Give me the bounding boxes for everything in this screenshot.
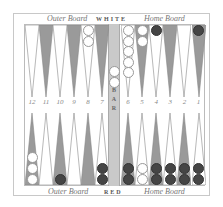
point-number: 6	[121, 98, 135, 106]
red-checker[interactable]	[193, 25, 204, 36]
point-top-1[interactable]	[25, 25, 39, 97]
point-number: 11	[39, 98, 53, 106]
white-checker[interactable]	[123, 36, 134, 47]
point-number: 7	[95, 98, 109, 106]
point-top-6[interactable]	[95, 25, 109, 97]
point-bottom-2[interactable]	[39, 113, 53, 185]
white-checker[interactable]	[137, 36, 148, 47]
point-number: 4	[149, 98, 163, 106]
point-top-4[interactable]	[67, 25, 81, 97]
white-checker[interactable]	[123, 57, 134, 68]
red-checker[interactable]	[165, 163, 176, 174]
point-number: 9	[67, 98, 81, 106]
bottom-home-board-label: Home Board	[144, 187, 185, 196]
bar-label: BAR	[109, 86, 119, 113]
red-checker[interactable]	[97, 163, 108, 174]
top-outer-board-label: Outer Board	[47, 14, 87, 23]
red-checker[interactable]	[179, 163, 190, 174]
point-top-3[interactable]	[53, 25, 67, 97]
red-checker[interactable]	[97, 174, 108, 185]
point-top-11[interactable]	[177, 25, 191, 97]
red-checker[interactable]	[55, 174, 66, 185]
white-checker[interactable]	[137, 25, 148, 36]
top-home-board-label: Home Board	[144, 14, 185, 23]
point-top-10[interactable]	[163, 25, 177, 97]
point-bottom-4[interactable]	[67, 113, 81, 185]
white-checker[interactable]	[123, 67, 134, 78]
point-number: 5	[135, 98, 149, 106]
white-checker[interactable]	[137, 163, 148, 174]
white-checker[interactable]	[27, 174, 38, 185]
red-checker[interactable]	[151, 174, 162, 185]
red-checker[interactable]	[151, 163, 162, 174]
point-number: 3	[163, 98, 177, 106]
white-checker[interactable]	[27, 163, 38, 174]
white-checker[interactable]	[27, 152, 38, 163]
white-checker[interactable]	[137, 174, 148, 185]
point-bottom-5[interactable]	[81, 113, 95, 185]
point-number: 10	[53, 98, 67, 106]
point-number: 8	[81, 98, 95, 106]
red-checker[interactable]	[151, 25, 162, 36]
red-side-label: RED	[104, 189, 123, 195]
bottom-outer-board-label: Outer Board	[48, 187, 88, 196]
bar-checker[interactable]	[109, 77, 120, 88]
white-side-label: WHITE	[96, 16, 127, 22]
point-top-2[interactable]	[39, 25, 53, 97]
point-number: 1	[192, 98, 206, 106]
red-checker[interactable]	[165, 174, 176, 185]
white-checker[interactable]	[123, 25, 134, 36]
red-checker[interactable]	[193, 174, 204, 185]
red-checker[interactable]	[123, 163, 134, 174]
red-checker[interactable]	[193, 163, 204, 174]
point-number: 12	[25, 98, 39, 106]
white-checker[interactable]	[83, 25, 94, 36]
red-checker[interactable]	[179, 174, 190, 185]
white-checker[interactable]	[83, 36, 94, 47]
red-checker[interactable]	[123, 174, 134, 185]
bar-checker[interactable]	[109, 66, 120, 77]
white-checker[interactable]	[123, 46, 134, 57]
point-number: 2	[177, 98, 191, 106]
